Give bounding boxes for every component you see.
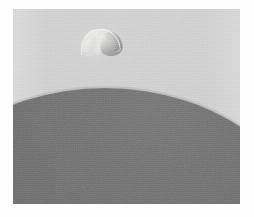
photographic-plate	[13, 9, 240, 204]
photograph	[0, 0, 254, 217]
bright-half-disc-object	[76, 24, 124, 61]
object-lit-face	[79, 27, 121, 57]
